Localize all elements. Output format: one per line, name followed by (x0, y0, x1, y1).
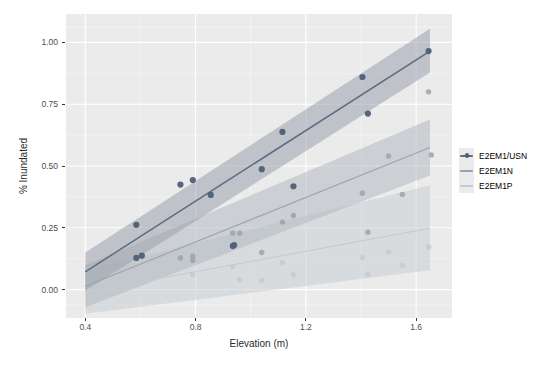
y-tick-label: 1.00 (34, 37, 58, 47)
data-point (133, 255, 139, 261)
data-point (365, 272, 370, 277)
data-point (291, 213, 296, 218)
data-point (429, 152, 434, 157)
data-point (231, 242, 237, 248)
legend-key-icon (459, 163, 474, 178)
data-point (259, 277, 264, 282)
x-tick-mark (85, 318, 86, 321)
legend-item-1[interactable]: E2EM1N (459, 163, 527, 178)
data-point (359, 74, 365, 80)
y-tick-mark (62, 227, 65, 228)
y-tick-mark (62, 289, 65, 290)
data-point (425, 48, 431, 54)
data-point (400, 263, 405, 268)
y-tick-label: 0.50 (34, 161, 58, 171)
data-point (360, 190, 365, 195)
data-point (280, 219, 285, 224)
data-point (400, 192, 405, 197)
x-tick-mark (195, 318, 196, 321)
legend-label: E2EM1/USN (479, 151, 527, 161)
data-point (190, 258, 195, 263)
x-tick-label: 0.4 (79, 322, 91, 332)
data-point (259, 250, 264, 255)
data-point (386, 153, 391, 158)
legend-label: E2EM1N (479, 166, 513, 176)
x-axis-title: Elevation (m) (66, 338, 452, 349)
x-tick-label: 1.2 (300, 322, 312, 332)
data-point (190, 177, 196, 183)
y-axis-title: % Inundated (18, 14, 32, 318)
data-point (291, 272, 296, 277)
data-point (365, 230, 370, 235)
y-tick-mark (62, 166, 65, 167)
x-tick-label: 1.6 (410, 322, 422, 332)
data-point (280, 260, 285, 265)
x-tick-mark (416, 318, 417, 321)
data-point (139, 253, 145, 259)
data-point (178, 255, 183, 260)
data-point (290, 183, 296, 189)
data-point (279, 129, 285, 135)
chart-root: 0.40.81.21.6 0.000.250.500.751.00 Elevat… (0, 0, 544, 371)
data-point (365, 111, 371, 117)
data-point (237, 277, 242, 282)
legend-key-icon (459, 178, 474, 193)
data-point (426, 89, 431, 94)
legend-item-0[interactable]: E2EM1/USN (459, 148, 527, 163)
plot-panel-wrapper (66, 14, 452, 318)
legend-label: E2EM1P (479, 181, 513, 191)
data-point (386, 249, 391, 254)
y-tick-label: 0.00 (34, 285, 58, 295)
y-tick-mark (62, 42, 65, 43)
x-tick-label: 0.8 (190, 322, 202, 332)
data-point (259, 166, 265, 172)
data-point (190, 272, 195, 277)
y-tick-label: 0.25 (34, 223, 58, 233)
x-tick-mark (305, 318, 306, 321)
plot-svg (66, 14, 452, 318)
data-point (133, 222, 139, 228)
data-point (360, 255, 365, 260)
data-point (230, 264, 235, 269)
legend: E2EM1/USNE2EM1NE2EM1P (459, 148, 527, 193)
legend-item-2[interactable]: E2EM1P (459, 178, 527, 193)
y-tick-label: 0.75 (34, 99, 58, 109)
data-point (208, 192, 214, 198)
data-point (177, 181, 183, 187)
data-point (237, 231, 242, 236)
legend-key-icon (459, 148, 474, 163)
y-tick-mark (62, 104, 65, 105)
data-point (230, 231, 235, 236)
data-point (426, 244, 431, 249)
